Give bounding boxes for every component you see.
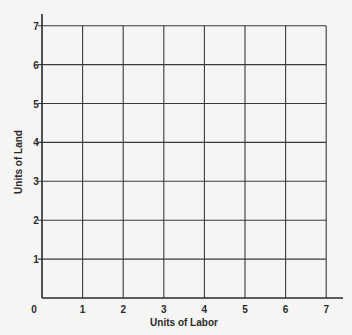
x-tick-label: 2 — [120, 304, 126, 315]
grid-lines — [38, 26, 326, 298]
y-axis-label: Units of Land — [13, 130, 24, 194]
y-tick-labels: 1234567 — [33, 21, 39, 265]
x-tick-label: 4 — [202, 304, 208, 315]
axes — [42, 14, 343, 298]
x-tick-label: 6 — [283, 304, 289, 315]
blank-grid-chart: 01234567 1234567 Units of Labor Units of… — [0, 0, 352, 335]
x-tick-label: 0 — [31, 304, 37, 315]
y-tick-label: 2 — [33, 215, 39, 226]
x-tick-label: 7 — [323, 304, 329, 315]
x-tick-label: 5 — [242, 304, 248, 315]
y-tick-label: 6 — [33, 60, 39, 71]
x-tick-labels: 01234567 — [31, 304, 329, 315]
y-tick-label: 5 — [33, 99, 39, 110]
x-tick-label: 1 — [80, 304, 86, 315]
y-tick-label: 7 — [33, 21, 39, 32]
x-tick-label: 3 — [161, 304, 167, 315]
y-tick-label: 1 — [33, 254, 39, 265]
x-axis-label: Units of Labor — [150, 317, 218, 328]
y-tick-label: 4 — [33, 137, 39, 148]
y-tick-label: 3 — [33, 176, 39, 187]
